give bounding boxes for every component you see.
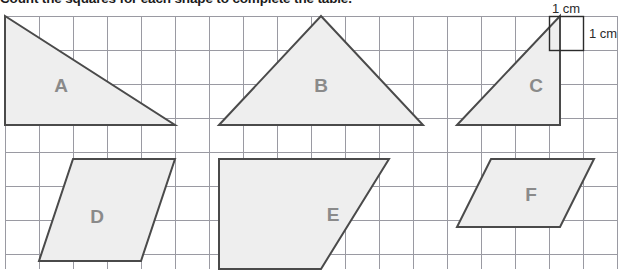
shape-b[interactable] bbox=[219, 16, 423, 125]
shape-a[interactable] bbox=[5, 16, 175, 125]
one-cm-horizontal-label: 1 cm bbox=[552, 1, 580, 16]
shapes-layer: ABCDEF bbox=[5, 16, 594, 269]
shape-c[interactable] bbox=[457, 16, 560, 125]
geometry-grid-canvas: ABCDEF 1 cm 1 cm bbox=[0, 0, 638, 276]
one-cm-vertical-label: 1 cm bbox=[589, 26, 617, 41]
shape-label-a: A bbox=[54, 75, 68, 96]
shape-label-b: B bbox=[314, 75, 328, 96]
shape-e[interactable] bbox=[219, 159, 389, 269]
shape-label-f: F bbox=[525, 184, 537, 205]
shape-label-d: D bbox=[90, 206, 104, 227]
shape-d[interactable] bbox=[39, 159, 175, 261]
worksheet-page: Count the squares for each shape to comp… bbox=[0, 0, 638, 276]
shape-label-e: E bbox=[327, 204, 340, 225]
shape-label-c: C bbox=[529, 75, 543, 96]
